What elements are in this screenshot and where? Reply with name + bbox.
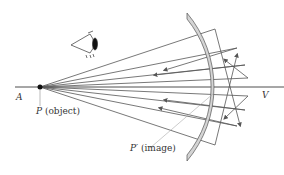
- label-v: V: [262, 90, 269, 100]
- image-leader: [150, 93, 214, 148]
- object-letter: P: [36, 106, 42, 116]
- image-letter: P′: [130, 143, 138, 153]
- label-image: P′ (image): [130, 143, 176, 153]
- object-text: (object): [45, 106, 80, 116]
- image-text: (image): [141, 143, 176, 153]
- object-point: [38, 85, 43, 90]
- label-object: P (object): [36, 106, 80, 116]
- eye-icon: [71, 31, 98, 58]
- label-a: A: [16, 92, 23, 102]
